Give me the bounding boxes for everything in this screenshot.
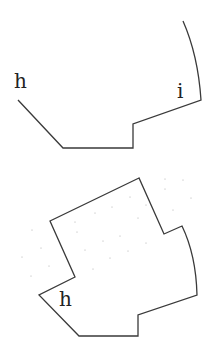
top-figure-outline (18, 21, 201, 148)
bottom-figure: h (39, 178, 197, 336)
top-label-i: i (177, 79, 183, 103)
bottom-label-h: h (59, 287, 72, 311)
top-label-h: h (14, 69, 27, 93)
bottom-figure-outline (39, 178, 197, 336)
geometry-diagram: h i h (0, 0, 215, 354)
top-figure: h i (14, 21, 201, 148)
